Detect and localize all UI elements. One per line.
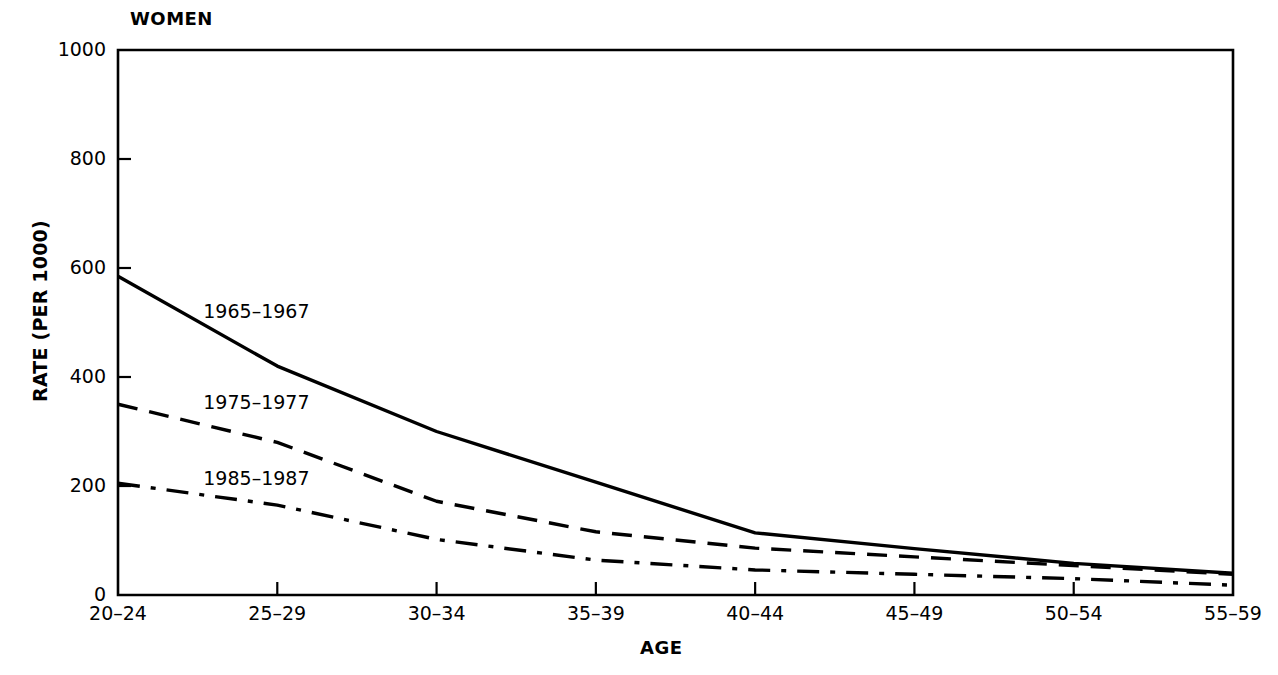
x-tick-label: 45–49 <box>854 604 974 623</box>
axis-frame <box>118 50 1233 595</box>
x-tick-label: 30–34 <box>377 604 497 623</box>
x-tick-label: 55–59 <box>1173 604 1278 623</box>
x-tick-label: 35–39 <box>536 604 656 623</box>
y-tick-label: 200 <box>26 476 106 495</box>
y-tick-marks <box>118 159 131 486</box>
x-tick-marks <box>277 582 1073 595</box>
series-line-1 <box>118 404 1233 574</box>
y-tick-label: 1000 <box>26 40 106 59</box>
x-tick-label: 40–44 <box>695 604 815 623</box>
x-tick-label: 20–24 <box>58 604 178 623</box>
chart-figure: WOMEN RATE (PER 1000) AGE 02004006008001… <box>0 0 1278 675</box>
series-label-1: 1975–1977 <box>203 393 309 412</box>
series-line-2 <box>118 483 1233 585</box>
y-tick-label: 400 <box>26 367 106 386</box>
series-lines <box>118 276 1233 585</box>
y-tick-label: 800 <box>26 149 106 168</box>
x-tick-label: 50–54 <box>1014 604 1134 623</box>
y-tick-label: 600 <box>26 258 106 277</box>
series-label-0: 1965–1967 <box>203 302 309 321</box>
line-chart-plot <box>0 0 1278 675</box>
x-tick-label: 25–29 <box>217 604 337 623</box>
series-label-2: 1985–1987 <box>203 469 309 488</box>
